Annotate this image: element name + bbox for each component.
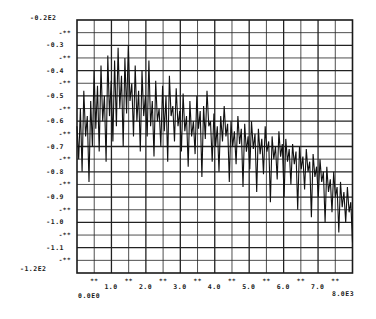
y-minor-tick: -**	[31, 29, 71, 36]
x-tick-label: 7.0	[311, 283, 324, 291]
x-axis-max-label: 8.0E3	[332, 290, 354, 298]
y-tick-label: -0.5	[24, 92, 64, 100]
x-minor-tick: **	[125, 277, 133, 284]
y-tick-label: -1.1	[24, 244, 64, 252]
x-minor-tick: **	[159, 277, 167, 284]
y-minor-tick: -**	[31, 79, 71, 86]
y-tick-label: -0.8	[24, 168, 64, 176]
y-tick-label: -0.7	[24, 143, 64, 151]
x-minor-tick: **	[262, 277, 270, 284]
x-minor-tick: **	[194, 277, 202, 284]
y-minor-tick: -**	[31, 54, 71, 61]
x-minor-tick: **	[90, 277, 98, 284]
y-tick-label: -0.9	[24, 193, 64, 201]
y-axis-max-label: -0.2E2	[30, 14, 56, 22]
y-tick-label: -1.0	[24, 218, 64, 226]
y-minor-tick: -**	[31, 206, 71, 213]
y-tick-label: -0.4	[24, 67, 64, 75]
y-minor-tick: -**	[31, 231, 71, 238]
y-minor-tick: -**	[31, 105, 71, 112]
y-minor-tick: -**	[31, 130, 71, 137]
x-tick-label: 3.0	[173, 283, 186, 291]
x-tick-label: 4.0	[208, 283, 221, 291]
x-tick-label: 1.0	[104, 283, 117, 291]
y-tick-label: -0.6	[24, 117, 64, 125]
x-tick-label: 5.0	[242, 283, 255, 291]
x-minor-tick: **	[228, 277, 236, 284]
y-minor-tick: -**	[31, 180, 71, 187]
x-tick-label: 6.0	[277, 283, 290, 291]
y-minor-tick: -**	[31, 155, 71, 162]
y-axis-min-label: -1.2E2	[20, 265, 46, 273]
x-minor-tick: **	[297, 277, 305, 284]
x-axis-min-label: 0.0E0	[78, 292, 100, 300]
y-tick-label: -0.3	[24, 41, 64, 49]
x-tick-label: 2.0	[139, 283, 152, 291]
x-minor-tick: **	[331, 277, 339, 284]
y-minor-tick: -**	[31, 256, 71, 263]
